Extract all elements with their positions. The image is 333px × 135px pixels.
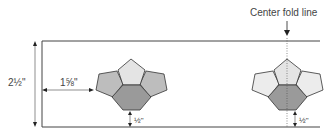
bottom-right-label: ½" bbox=[299, 116, 309, 125]
arrow-down-icon bbox=[293, 123, 297, 127]
arrow-up-icon bbox=[128, 111, 132, 115]
arrow-left-icon bbox=[42, 88, 47, 92]
top-pentagon bbox=[118, 59, 145, 85]
arrow-down-icon bbox=[284, 30, 290, 36]
arrow-down-icon bbox=[33, 122, 37, 127]
fold-diagram: 2½" 1⅝" ½" Center fold line ½" bbox=[0, 0, 333, 135]
top-pentagon bbox=[274, 59, 301, 85]
pentagon-motif-left bbox=[96, 59, 167, 110]
arrow-up-icon bbox=[33, 41, 37, 46]
fold-line-label: Center fold line bbox=[250, 7, 318, 18]
height-label: 2½" bbox=[8, 77, 26, 88]
arrow-right-icon bbox=[89, 88, 94, 92]
bottom-left-label: ½" bbox=[134, 116, 144, 125]
arrow-down-icon bbox=[128, 123, 132, 127]
arrow-up-icon bbox=[293, 111, 297, 115]
offset-label: 1⅝" bbox=[60, 77, 78, 88]
pentagon-motif-right bbox=[252, 59, 323, 110]
